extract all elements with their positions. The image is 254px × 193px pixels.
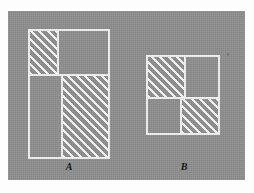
diagram-panel: A B (8, 11, 245, 180)
figure-b (146, 55, 220, 135)
figure-a-region-lower-right (61, 74, 110, 159)
figure-b-label: B (174, 162, 194, 172)
figure-b-region-lower-left (146, 97, 182, 135)
figure-a-label: A (59, 162, 79, 172)
figure-root: A B (0, 0, 254, 193)
figure-a-region-upper-left (28, 29, 59, 76)
plate-speck (227, 53, 229, 56)
figure-a-region-lower-left (28, 74, 63, 159)
figure-b-region-upper-left (146, 55, 186, 99)
figure-a-region-upper-right (57, 29, 110, 76)
figure-a (28, 29, 110, 159)
figure-b-region-lower-right (180, 97, 220, 135)
figure-b-region-upper-right (184, 55, 220, 99)
